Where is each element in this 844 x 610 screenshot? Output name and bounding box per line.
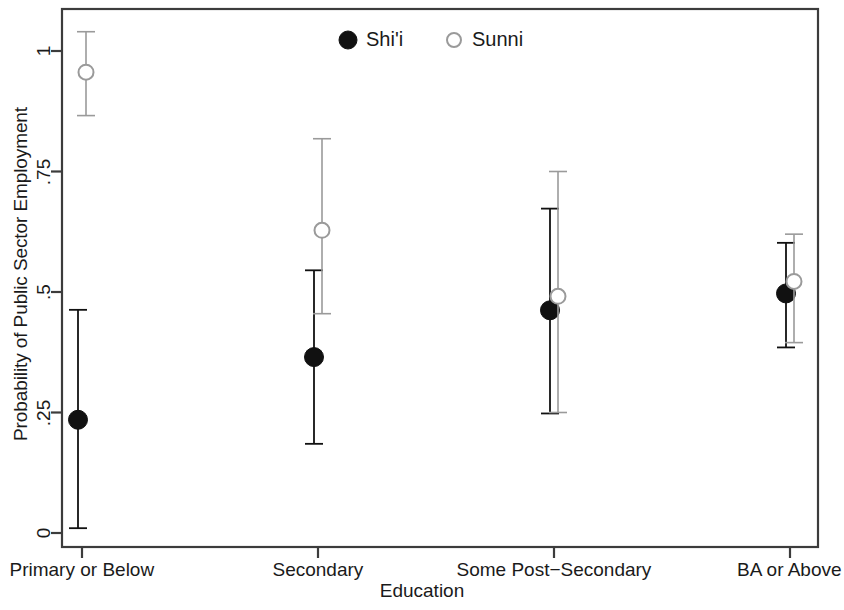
x-axis-tick-label: Secondary (273, 559, 364, 581)
figure-panel: Probability of Public Sector Employment … (0, 0, 844, 610)
legend-label-sunni: Sunni (472, 28, 523, 50)
x-axis-tick-label: BA or Above (737, 559, 842, 581)
data-point-marker (305, 348, 324, 367)
data-point-marker (79, 65, 94, 80)
legend-label-shii: Shi'i (366, 28, 403, 50)
series-sunni (77, 32, 803, 413)
chart-svg (0, 0, 844, 610)
y-axis-tick-label: .75 (34, 147, 56, 197)
y-axis-tick-label: .5 (34, 267, 56, 317)
y-axis-tick-label: 0 (34, 508, 56, 558)
data-point-marker (787, 274, 802, 289)
x-axis-title: Education (0, 580, 844, 602)
plot-frame (62, 9, 818, 547)
data-point-marker (69, 410, 88, 429)
x-axis-tick-label: Primary or Below (10, 559, 155, 581)
legend-marker-shii (339, 31, 357, 49)
y-axis-tick-label: .25 (34, 388, 56, 438)
x-axis-tick-label: Some Post−Secondary (457, 559, 652, 581)
legend-marker-sunni (447, 33, 461, 47)
data-point-marker (551, 289, 566, 304)
data-point-marker (315, 223, 330, 238)
series-shii (69, 209, 796, 529)
y-axis-tick-label: 1 (34, 26, 56, 76)
